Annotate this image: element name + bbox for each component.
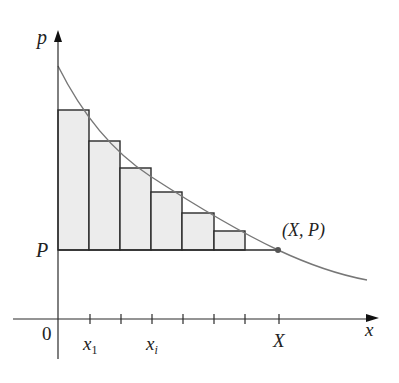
tick-label-x1: x1 — [82, 333, 97, 357]
rectangle-4 — [151, 192, 182, 250]
tick-label-xi: xi — [145, 333, 158, 357]
point-label: (X, P) — [282, 220, 325, 241]
rectangle-3 — [120, 168, 151, 250]
diagram: p x 0 P (X, P) x1 xi X — [0, 0, 399, 383]
rectangle-2 — [89, 141, 120, 250]
x-axis-label: x — [364, 319, 374, 340]
origin-label: 0 — [42, 323, 52, 344]
price-label: P — [35, 239, 48, 261]
rectangle-6 — [214, 231, 245, 250]
rectangles — [58, 110, 245, 250]
rectangle-1 — [58, 110, 89, 250]
rectangle-5 — [182, 213, 214, 250]
y-axis-arrow-icon — [54, 30, 62, 42]
y-axis-label: p — [35, 26, 47, 49]
point-XP — [275, 247, 281, 253]
tick-label-X: X — [272, 330, 286, 351]
